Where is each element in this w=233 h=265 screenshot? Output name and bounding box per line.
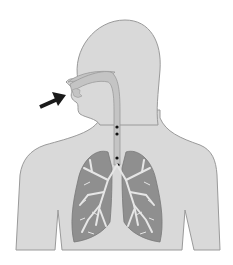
- respiratory-diagram: Human respiratory system: air entering t…: [0, 0, 233, 265]
- arrow-icon: [40, 92, 66, 107]
